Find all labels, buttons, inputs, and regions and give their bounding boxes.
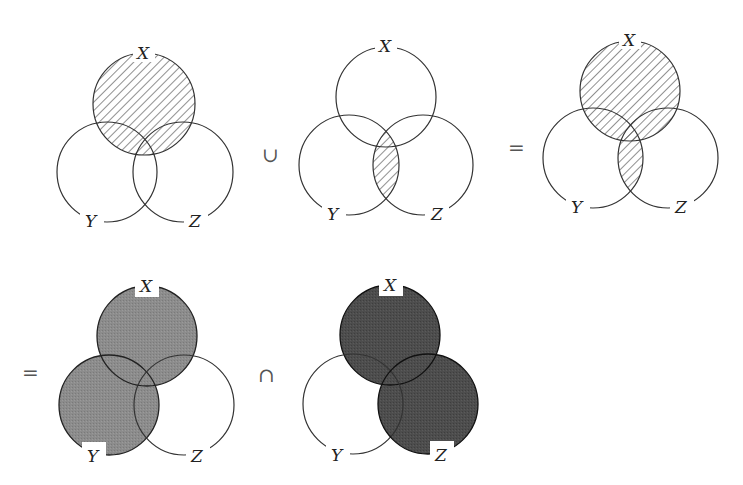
label-x: X xyxy=(382,275,397,295)
panel-y-and-z: X Y Z xyxy=(299,33,473,224)
label-x: X xyxy=(138,276,153,296)
panel-x-or-z: X Y Z xyxy=(303,270,478,467)
label-z: Z xyxy=(188,211,202,231)
label-x: X xyxy=(135,43,150,63)
panel-x-or-y: X Y Z xyxy=(59,271,234,468)
label-x: X xyxy=(377,36,392,56)
label-y: Y xyxy=(571,197,584,217)
label-y: Y xyxy=(85,211,98,231)
label-z: Z xyxy=(434,445,448,465)
label-y: Y xyxy=(87,446,100,466)
label-y: Y xyxy=(327,204,340,224)
intersection-operator: ∩ xyxy=(258,363,275,387)
label-z: Z xyxy=(190,446,204,466)
label-x: X xyxy=(621,30,636,50)
venn-diagram-canvas: X Y Z ∪ X Y Z = X Y Z = xyxy=(0,0,743,485)
panel-x: X Y Z xyxy=(57,40,233,231)
label-z: Z xyxy=(430,204,444,224)
label-y: Y xyxy=(331,445,344,465)
equals-operator-bottom: = xyxy=(22,361,39,385)
union-operator: ∪ xyxy=(262,143,279,167)
panel-x-or-y-and-z: X Y Z xyxy=(543,27,718,217)
equals-operator-top: = xyxy=(508,136,525,160)
label-z: Z xyxy=(674,197,688,217)
